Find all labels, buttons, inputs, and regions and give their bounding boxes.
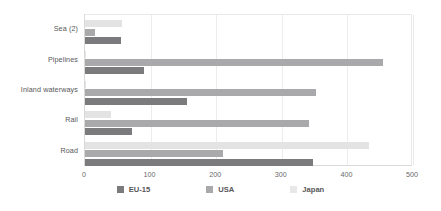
bar-eu-2 bbox=[85, 98, 187, 105]
chart-legend: EU-15USAJapan bbox=[0, 185, 441, 194]
legend-label-japan: Japan bbox=[302, 185, 324, 194]
bar-japan-2 bbox=[85, 81, 86, 88]
bar-japan-1 bbox=[85, 51, 86, 58]
bar-group bbox=[85, 106, 411, 136]
x-tick-500: 500 bbox=[406, 170, 418, 179]
bar-eu-0 bbox=[85, 37, 121, 44]
bar-chart: Sea (2)PipelinesInland waterwaysRailRoad… bbox=[0, 0, 441, 211]
bar-group bbox=[85, 137, 411, 167]
plot-area bbox=[84, 14, 412, 166]
legend-label-eu: EU-15 bbox=[129, 185, 151, 194]
category-label-1: Pipelines bbox=[48, 55, 78, 64]
legend-item-japan[interactable]: Japan bbox=[290, 185, 324, 194]
bar-usa-3 bbox=[85, 120, 309, 127]
x-tick-400: 400 bbox=[340, 170, 352, 179]
x-tick-200: 200 bbox=[209, 170, 221, 179]
legend-item-eu[interactable]: EU-15 bbox=[117, 185, 151, 194]
category-label-4: Road bbox=[60, 146, 78, 155]
bar-japan-0 bbox=[85, 20, 122, 27]
bar-eu-4 bbox=[85, 159, 313, 166]
bar-usa-1 bbox=[85, 59, 383, 66]
bar-eu-3 bbox=[85, 128, 132, 135]
category-label-3: Rail bbox=[65, 115, 78, 124]
legend-swatch-eu-icon bbox=[117, 186, 124, 193]
legend-swatch-japan-icon bbox=[290, 186, 297, 193]
x-tick-0: 0 bbox=[82, 170, 86, 179]
x-tick-300: 300 bbox=[275, 170, 287, 179]
bar-group bbox=[85, 45, 411, 75]
bar-japan-4 bbox=[85, 142, 369, 149]
legend-swatch-usa-icon bbox=[206, 186, 213, 193]
bar-group bbox=[85, 15, 411, 45]
bar-usa-4 bbox=[85, 150, 223, 157]
legend-item-usa[interactable]: USA bbox=[206, 185, 234, 194]
category-label-2: Inland waterways bbox=[21, 85, 78, 94]
bar-usa-2 bbox=[85, 89, 316, 96]
gridline-500 bbox=[413, 15, 414, 165]
bar-usa-0 bbox=[85, 29, 95, 36]
bar-group bbox=[85, 76, 411, 106]
bar-japan-3 bbox=[85, 111, 111, 118]
bar-eu-1 bbox=[85, 67, 144, 74]
x-tick-100: 100 bbox=[144, 170, 156, 179]
category-label-0: Sea (2) bbox=[54, 24, 78, 33]
legend-label-usa: USA bbox=[218, 185, 234, 194]
